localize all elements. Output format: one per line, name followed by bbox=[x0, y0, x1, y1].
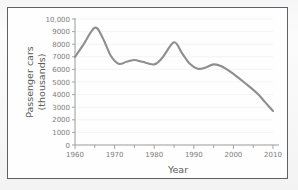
x-tick-label: 1990 bbox=[185, 151, 203, 159]
y-tick-label: 6000 bbox=[52, 66, 70, 74]
y-tick-label: 10,000 bbox=[46, 16, 71, 24]
x-tick-group: 196019701980199020002010 bbox=[66, 145, 282, 159]
y-tick-group: 010002000300040005000600070008000900010,… bbox=[46, 16, 76, 150]
y-tick-label: 2000 bbox=[52, 116, 70, 124]
line-chart: 010002000300040005000600070008000900010,… bbox=[8, 8, 287, 178]
y-tick-label: 8000 bbox=[52, 41, 70, 49]
y-tick-label: 0 bbox=[66, 142, 70, 150]
y-axis-title-line1: Passenger cars bbox=[24, 46, 35, 118]
x-tick-label: 2010 bbox=[264, 151, 282, 159]
x-tick-label: 1980 bbox=[145, 151, 163, 159]
x-tick-label: 1960 bbox=[66, 151, 84, 159]
x-tick-label: 1970 bbox=[106, 151, 124, 159]
chart-plate: 010002000300040005000600070008000900010,… bbox=[7, 7, 288, 179]
y-tick-label: 1000 bbox=[52, 129, 70, 137]
x-tick-label: 2000 bbox=[224, 151, 242, 159]
y-tick-label: 7000 bbox=[52, 53, 70, 61]
y-tick-label: 9000 bbox=[52, 28, 70, 36]
gridlines-group bbox=[75, 19, 273, 132]
figure-container: 010002000300040005000600070008000900010,… bbox=[0, 0, 298, 190]
y-tick-label: 5000 bbox=[52, 79, 70, 87]
y-tick-label: 3000 bbox=[52, 104, 70, 112]
y-tick-label: 4000 bbox=[52, 91, 70, 99]
y-axis-title-line2: (thousands) bbox=[36, 54, 47, 111]
x-axis-title: Year bbox=[167, 164, 188, 175]
